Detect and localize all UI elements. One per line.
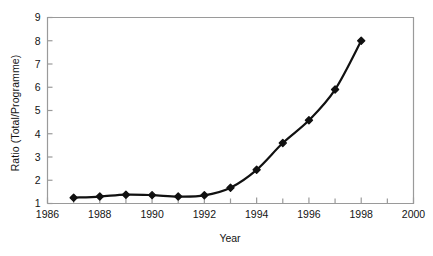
- x-tick-label: 1994: [245, 208, 269, 220]
- data-point-marker: [122, 191, 129, 198]
- y-tick-label: 4: [35, 128, 41, 140]
- y-tick-label: 3: [35, 151, 41, 163]
- x-axis-ticks: 19861988199019921994199619982000: [36, 198, 426, 220]
- y-tick-label: 2: [35, 174, 41, 186]
- data-point-marker: [201, 192, 208, 199]
- y-tick-label: 7: [35, 58, 41, 70]
- line-chart-plot: 123456789 198619881990199219941996199820…: [0, 0, 433, 256]
- y-axis-ticks: 123456789: [35, 11, 53, 209]
- x-tick-label: 1986: [36, 208, 60, 220]
- x-tick-label: 2000: [402, 208, 426, 220]
- data-point-marker: [175, 193, 182, 200]
- y-tick-label: 9: [35, 11, 41, 23]
- y-tick-label: 8: [35, 35, 41, 47]
- x-tick-label: 1998: [350, 208, 374, 220]
- x-tick-label: 1992: [193, 208, 217, 220]
- data-point-marker: [70, 194, 77, 201]
- x-tick-label: 1996: [297, 208, 321, 220]
- data-point-marker: [149, 192, 156, 199]
- x-axis-label: Year: [47, 232, 413, 244]
- x-tick-label: 1990: [140, 208, 164, 220]
- y-tick-label: 6: [35, 81, 41, 93]
- y-tick-label: 5: [35, 104, 41, 116]
- data-point-markers: [70, 37, 365, 201]
- data-series-line: [74, 41, 362, 198]
- x-tick-label: 1988: [88, 208, 112, 220]
- data-point-marker: [96, 193, 103, 200]
- chart-figure: Ratio (Total/Programme) 123456789 198619…: [0, 0, 433, 256]
